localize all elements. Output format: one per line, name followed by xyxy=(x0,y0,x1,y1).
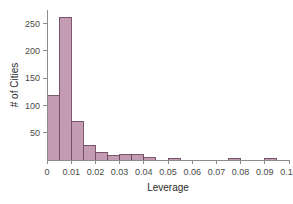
x-tick-label: 0.01 xyxy=(62,167,80,177)
x-tick-label: 0.10 xyxy=(280,167,293,177)
y-tick-label: 100 xyxy=(25,101,40,111)
x-axis-group: 00.010.020.030.040.050.060.070.080.090.1… xyxy=(44,160,293,177)
x-tick-label: 0.08 xyxy=(232,167,250,177)
y-tick-label: 50 xyxy=(30,128,40,138)
y-axis-title: # of Cities xyxy=(9,63,20,107)
x-tick-label: 0.02 xyxy=(87,167,105,177)
y-tick-label: 250 xyxy=(25,19,40,29)
histogram-bar xyxy=(59,17,71,160)
histogram-bar xyxy=(95,152,107,160)
histogram-figure: 50100150200250 00.010.020.030.040.050.06… xyxy=(0,0,293,204)
x-tick-label: 0.06 xyxy=(183,167,201,177)
x-tick-label: 0.05 xyxy=(159,167,177,177)
x-tick-label: 0 xyxy=(44,167,49,177)
histogram-bar xyxy=(108,156,120,160)
x-tick-label: 0.04 xyxy=(135,167,153,177)
y-tick-label: 200 xyxy=(25,46,40,56)
y-axis-group: 50100150200250 xyxy=(25,10,47,160)
x-tick-label: 0.07 xyxy=(208,167,226,177)
x-axis-title: Leverage xyxy=(147,182,189,193)
histogram-bar xyxy=(83,145,95,160)
leverage-histogram-chart: 50100150200250 00.010.020.030.040.050.06… xyxy=(0,0,293,204)
histogram-bar xyxy=(71,121,83,160)
histogram-bar xyxy=(47,96,59,160)
histogram-bar xyxy=(120,154,132,160)
histogram-bar xyxy=(132,155,144,160)
x-tick-label: 0.03 xyxy=(111,167,129,177)
bars-group xyxy=(47,17,277,160)
x-tick-label: 0.09 xyxy=(256,167,274,177)
y-tick-label: 150 xyxy=(25,73,40,83)
